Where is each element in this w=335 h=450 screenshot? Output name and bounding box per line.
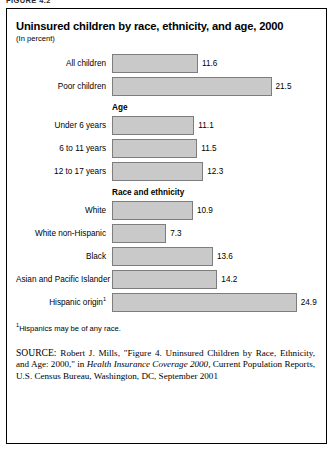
figure-subtitle: (In percent) [16,34,317,44]
bar-label: White non-Hispanic [16,229,112,239]
bar-label-text: White [85,206,106,215]
bar-label: Black [16,252,112,262]
bar [112,224,166,243]
figure-inner: Uninsured children by race, ethnicity, a… [7,9,326,443]
bar-label-footnote-marker: 1 [103,296,106,302]
source-citation: SOURCE: Robert J. Mills, "Figure 4. Unin… [16,347,317,382]
bar-value-label: 10.9 [193,206,213,216]
source-publication-title: Health Insurance Coverage 2000, [87,359,211,369]
bar-row: Under 6 years11.1 [16,115,317,136]
figure-footnote: 1Hispanics may be of any race. [16,324,317,334]
bar-value-label: 24.9 [297,298,317,308]
bar-value-label: 11.5 [197,144,216,154]
bar-row: Hispanic origin124.9 [16,292,317,313]
bar-label: White [16,206,112,216]
bar-row: White non-Hispanic7.3 [16,223,317,244]
bar-label: Under 6 years [16,121,112,131]
bar-track: 11.5 [112,139,317,158]
bar-value-label: 21.5 [272,82,292,92]
bar [112,162,203,181]
bar-row: 12 to 17 years12.3 [16,161,317,182]
bar-track: 14.2 [112,270,317,289]
bar-label-text: All children [66,59,106,68]
bar-label: All children [16,59,112,69]
bar-label: Hispanic origin1 [16,298,112,308]
bar-label-text: Hispanic origin [49,298,103,307]
bar-label: Poor children [16,82,112,92]
bar-track: 12.3 [112,162,317,181]
bar-track: 11.1 [112,116,317,135]
bar [112,77,272,96]
bar-label: 6 to 11 years [16,144,112,154]
bar-track: 10.9 [112,201,317,220]
figure-frame: Uninsured children by race, ethnicity, a… [6,8,327,444]
bar-value-label: 12.3 [203,167,223,177]
bar-label-text: Asian and Pacific Islander [16,275,110,284]
bar-label-text: 6 to 11 years [59,144,106,153]
bar-track: 13.6 [112,247,317,266]
bar-row: Asian and Pacific Islander14.2 [16,269,317,290]
bar-label: Asian and Pacific Islander [16,275,112,285]
group-header-race-and-ethnicity: Race and ethnicity [112,184,317,200]
page-title: Uninsured children by race, ethnicity, a… [16,20,317,33]
bar-track: 24.9 [112,293,317,312]
bar-label-text: White non-Hispanic [35,229,106,238]
bar-track: 11.6 [112,54,317,73]
source-label: SOURCE: [16,347,57,358]
bar-row: All children11.6 [16,53,317,74]
bar-value-label: 11.1 [194,121,213,131]
bar [112,247,213,266]
bar-label-text: Poor children [58,82,106,91]
bar-label-text: Black [86,252,106,261]
bar [112,54,198,73]
bar-row: Poor children21.5 [16,76,317,97]
bar [112,293,297,312]
figure-number-label: FIGURE 4.2 [6,0,51,4]
bar [112,201,193,220]
bar [112,270,217,289]
bar-value-label: 14.2 [217,275,237,285]
bar [112,139,197,158]
bar-track: 21.5 [112,77,317,96]
footnote-text: Hispanics may be of any race. [19,324,121,333]
bar-row: Black13.6 [16,246,317,267]
bar-value-label: 13.6 [213,252,233,262]
bar-chart: All children11.6Poor children21.5AgeUnde… [16,53,317,313]
group-header-age: Age [112,99,317,115]
bar-value-label: 7.3 [166,229,181,239]
bar-row: 6 to 11 years11.5 [16,138,317,159]
bar-value-label: 11.6 [198,59,217,69]
bar-label: 12 to 17 years [16,167,112,177]
bar-row: White10.9 [16,200,317,221]
bar-label-text: 12 to 17 years [54,167,106,176]
bar-label-text: Under 6 years [55,121,106,130]
bar [112,116,194,135]
bar-track: 7.3 [112,224,317,243]
